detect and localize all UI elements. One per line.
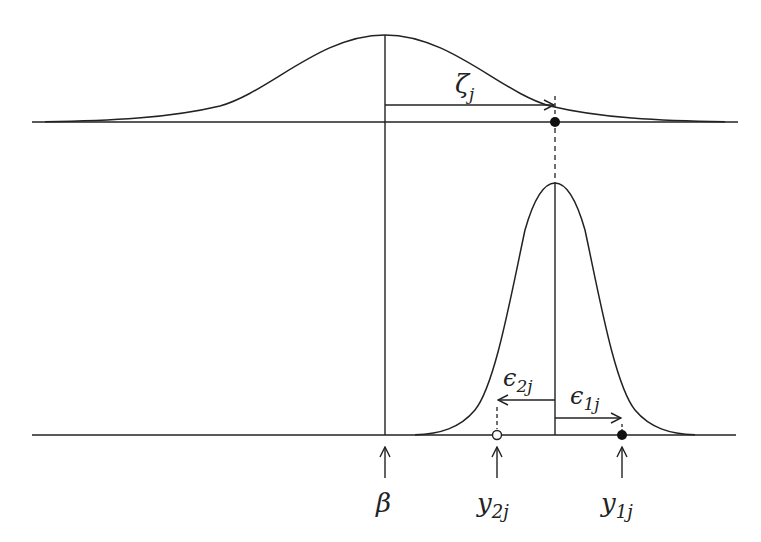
top-filled-point <box>550 117 560 127</box>
y2j-label: y2j <box>476 488 509 522</box>
diagram-canvas: ζj ϵ2j ϵ1j β y2j y1j <box>0 0 761 542</box>
y2-open-point <box>493 431 502 440</box>
y1-filled-point <box>617 430 627 440</box>
y1j-label: y1j <box>600 488 633 522</box>
eps1-label: ϵ1j <box>570 382 600 414</box>
eps2-label: ϵ2j <box>503 364 533 396</box>
beta-label: β <box>375 488 391 518</box>
zeta-label: ζj <box>455 69 475 104</box>
